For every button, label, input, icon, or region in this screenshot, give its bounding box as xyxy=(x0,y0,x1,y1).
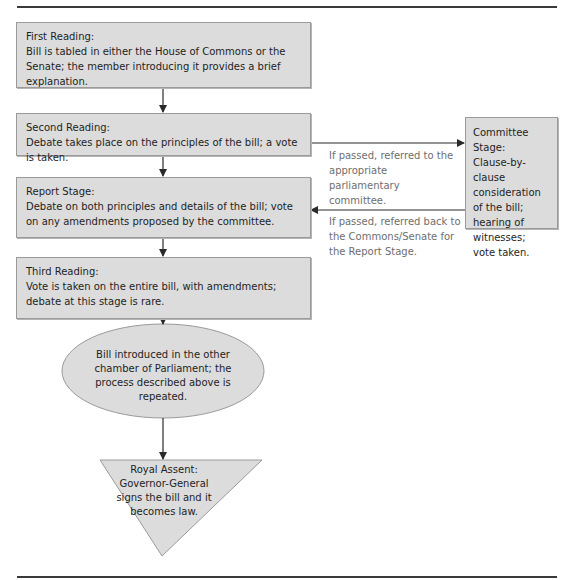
first-reading-box: First Reading: Bill is tabled in either … xyxy=(16,22,311,88)
report-stage-title: Report Stage: xyxy=(26,184,301,199)
third-reading-box: Third Reading: Vote is taken on the enti… xyxy=(16,257,311,319)
royal-assent-body: Governor-General signs the bill and it b… xyxy=(116,478,211,517)
second-reading-box: Second Reading: Debate takes place on th… xyxy=(16,113,311,156)
first-reading-title: First Reading: xyxy=(26,29,301,44)
other-chamber-text: Bill introduced in the other chamber of … xyxy=(78,348,248,404)
committee-stage-box: Committee Stage: Clause-by-clause consid… xyxy=(465,117,558,229)
third-reading-text: Vote is taken on the entire bill, with a… xyxy=(26,281,276,307)
report-stage-box: Report Stage: Debate on both principles … xyxy=(16,177,311,238)
second-reading-title: Second Reading: xyxy=(26,120,301,135)
committee-stage-title: Committee Stage: xyxy=(473,125,550,155)
note-to-committee: If passed, referred to the appropriate p… xyxy=(329,148,454,208)
third-reading-title: Third Reading: xyxy=(26,264,301,279)
report-stage-text: Debate on both principles and details of… xyxy=(26,201,293,227)
note-back-from-committee: If passed, referred back to the Commons/… xyxy=(329,214,464,259)
first-reading-text: Bill is tabled in either the House of Co… xyxy=(26,46,286,87)
second-reading-text: Debate takes place on the principles of … xyxy=(26,137,297,163)
royal-assent-title: Royal Assent: xyxy=(105,463,223,477)
royal-assent-text: Royal Assent: Governor-General signs the… xyxy=(105,463,223,519)
committee-stage-text: Clause-by-clause consideration of the bi… xyxy=(473,157,541,258)
